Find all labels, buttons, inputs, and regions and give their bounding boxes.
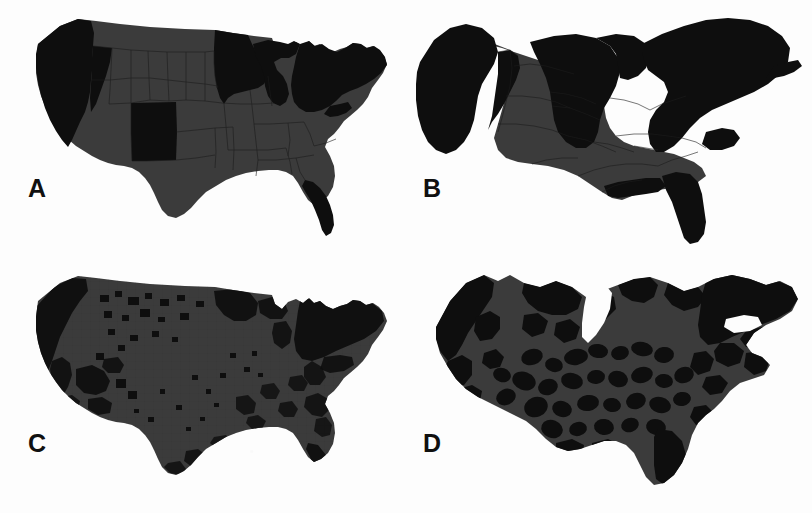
state-choropleth-map [0,0,406,256]
panel-label-a: A [28,176,46,201]
election-maps-figure: A [0,0,812,513]
panel-label-d: D [423,431,441,456]
panel-b-state-cartogram: B [406,0,812,256]
county-cartogram-map [406,257,812,513]
state-cartogram-map [406,0,812,256]
panel-c-county-choropleth: C [0,257,406,513]
panel-label-c: C [28,431,46,456]
panel-label-b: B [423,176,441,201]
county-dark-cells [0,257,406,513]
county-choropleth-map [0,257,406,513]
panel-d-county-cartogram: D [406,257,812,513]
panel-a-state-choropleth: A [0,0,406,256]
